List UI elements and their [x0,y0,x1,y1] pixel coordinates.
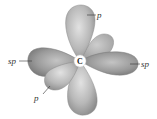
carbon-label: C [77,57,83,66]
orbital-diagram: C p sp sp p [0,0,157,119]
leader-line-p-front [43,86,50,94]
label-p-top: p [96,10,102,20]
label-sp-left: sp [8,56,17,66]
label-p-front: p [33,93,39,103]
label-sp-right: sp [141,59,150,69]
